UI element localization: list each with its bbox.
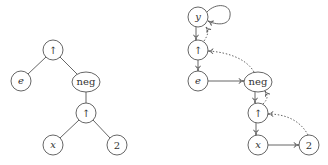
back-edge-2-to-power <box>268 114 308 135</box>
svg-text:neg: neg <box>249 76 268 87</box>
tree-node-e: e <box>11 71 31 91</box>
graph-node-power: ↑ <box>188 40 208 60</box>
tree-node-power: ↑ <box>43 40 63 60</box>
svg-text:↑: ↑ <box>254 108 262 119</box>
graph-node-power-inner: ↑ <box>248 103 268 123</box>
svg-text:↑: ↑ <box>82 108 90 119</box>
diagram-canvas: ↑ e neg ↑ x 2 <box>0 0 328 165</box>
graph-node-2: 2 <box>299 135 319 155</box>
svg-text:x: x <box>255 139 261 150</box>
back-edge-neg-to-power <box>208 51 254 72</box>
svg-text:e: e <box>195 75 201 86</box>
tree-edge <box>93 120 110 138</box>
graph-node-neg: neg <box>244 72 272 92</box>
graph-node-e: e <box>188 71 208 91</box>
graph-node-x: x <box>248 135 268 155</box>
svg-text:x: x <box>50 139 56 150</box>
linked-graph: y ↑ e neg ↑ x 2 <box>188 6 319 155</box>
svg-text:↑: ↑ <box>194 45 202 56</box>
svg-text:y: y <box>194 11 201 22</box>
tree-node-2: 2 <box>107 135 127 155</box>
svg-text:2: 2 <box>306 140 312 151</box>
tree-node-x: x <box>43 135 63 155</box>
graph-node-y: y <box>188 7 208 27</box>
self-loop-edge <box>207 6 230 24</box>
tree-edge <box>60 57 77 74</box>
tree-node-neg: neg <box>72 72 100 92</box>
svg-text:2: 2 <box>114 140 120 151</box>
back-edge-power-to-y <box>204 27 208 41</box>
svg-text:e: e <box>18 75 24 86</box>
tree-edge <box>28 57 46 74</box>
expression-tree: ↑ e neg ↑ x 2 <box>11 40 127 155</box>
svg-text:neg: neg <box>77 76 96 87</box>
tree-node-power-inner: ↑ <box>76 103 96 123</box>
back-edge-power-to-neg <box>263 91 267 104</box>
tree-edge <box>60 120 79 138</box>
svg-text:↑: ↑ <box>49 45 57 56</box>
